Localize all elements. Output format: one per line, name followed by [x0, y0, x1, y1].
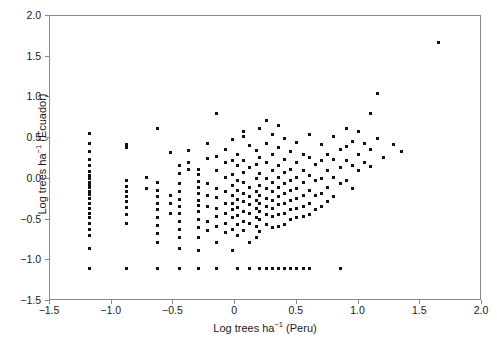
data-point — [271, 153, 274, 156]
data-point — [197, 267, 200, 270]
data-point — [271, 199, 274, 202]
data-point — [248, 186, 251, 189]
data-point — [302, 153, 305, 156]
data-point — [289, 267, 292, 270]
data-point — [88, 164, 91, 167]
data-point — [283, 182, 286, 185]
data-point — [178, 220, 181, 223]
data-point — [125, 185, 128, 188]
data-point — [215, 215, 218, 218]
data-point — [265, 161, 268, 164]
data-point — [88, 247, 91, 250]
y-tick-label: −1.0 — [0, 253, 41, 265]
data-point — [345, 127, 348, 130]
x-tick-label: −1.0 — [81, 304, 141, 316]
data-point — [88, 197, 91, 200]
data-point — [125, 206, 128, 209]
data-point — [357, 169, 360, 172]
data-point — [295, 197, 298, 200]
data-point — [156, 127, 159, 130]
data-point — [231, 202, 234, 205]
data-point — [283, 212, 286, 215]
data-point — [215, 267, 218, 270]
data-point — [271, 215, 274, 218]
data-point — [277, 203, 280, 206]
data-point — [231, 208, 234, 211]
data-point — [258, 127, 261, 130]
data-point — [242, 200, 245, 203]
data-point — [308, 213, 311, 216]
data-point — [224, 176, 227, 179]
data-point — [289, 150, 292, 153]
data-point — [215, 207, 218, 210]
data-point — [255, 163, 258, 166]
data-point — [339, 148, 342, 151]
y-tick-mark — [45, 300, 49, 301]
y-tick-label: 1.0 — [0, 90, 41, 102]
x-tick-label: 1.0 — [328, 304, 388, 316]
data-point — [178, 164, 181, 167]
data-point — [277, 176, 280, 179]
data-point — [197, 180, 200, 183]
data-point — [88, 228, 91, 231]
data-point — [320, 143, 323, 146]
x-tick-label: 0.5 — [266, 304, 326, 316]
data-point — [156, 241, 159, 244]
data-point — [231, 216, 234, 219]
data-point — [314, 163, 317, 166]
data-point — [363, 161, 366, 164]
data-point — [224, 222, 227, 225]
data-point — [392, 143, 395, 146]
data-point — [224, 161, 227, 164]
data-point — [258, 184, 261, 187]
data-point — [376, 137, 379, 140]
data-point — [88, 267, 91, 270]
data-point — [231, 173, 234, 176]
data-point — [156, 232, 159, 235]
data-point — [289, 208, 292, 211]
data-point — [215, 112, 218, 115]
data-point — [295, 216, 298, 219]
data-point — [125, 222, 128, 225]
data-point — [88, 150, 91, 153]
data-point — [197, 199, 200, 202]
data-point — [215, 169, 218, 172]
data-point — [125, 146, 128, 149]
data-point — [295, 141, 298, 144]
data-point — [382, 156, 385, 159]
data-point — [320, 159, 323, 162]
data-point — [231, 228, 234, 231]
data-point — [283, 267, 286, 270]
data-point — [197, 226, 200, 229]
data-point — [277, 225, 280, 228]
data-point — [236, 164, 239, 167]
data-point — [271, 181, 274, 184]
data-point — [242, 181, 245, 184]
data-point — [215, 155, 218, 158]
data-point — [258, 230, 261, 233]
data-point — [255, 216, 258, 219]
data-point — [308, 267, 311, 270]
data-point — [187, 161, 190, 164]
data-point — [255, 199, 258, 202]
data-point — [178, 190, 181, 193]
x-axis-title: Log trees ha−1 (Peru) — [49, 322, 481, 334]
data-point — [332, 158, 335, 161]
data-point — [248, 203, 251, 206]
data-point — [277, 186, 280, 189]
data-point — [357, 153, 360, 156]
data-point — [206, 194, 209, 197]
data-point — [125, 213, 128, 216]
data-point — [88, 202, 91, 205]
x-tick-label: 2.0 — [451, 304, 497, 316]
data-point — [215, 187, 218, 190]
plot-frame — [49, 15, 481, 300]
data-point — [308, 189, 311, 192]
data-point — [125, 200, 128, 203]
data-point — [242, 229, 245, 232]
data-point — [206, 157, 209, 160]
data-point — [258, 218, 261, 221]
data-point — [145, 187, 148, 190]
data-point — [277, 146, 280, 149]
data-point — [248, 144, 251, 147]
